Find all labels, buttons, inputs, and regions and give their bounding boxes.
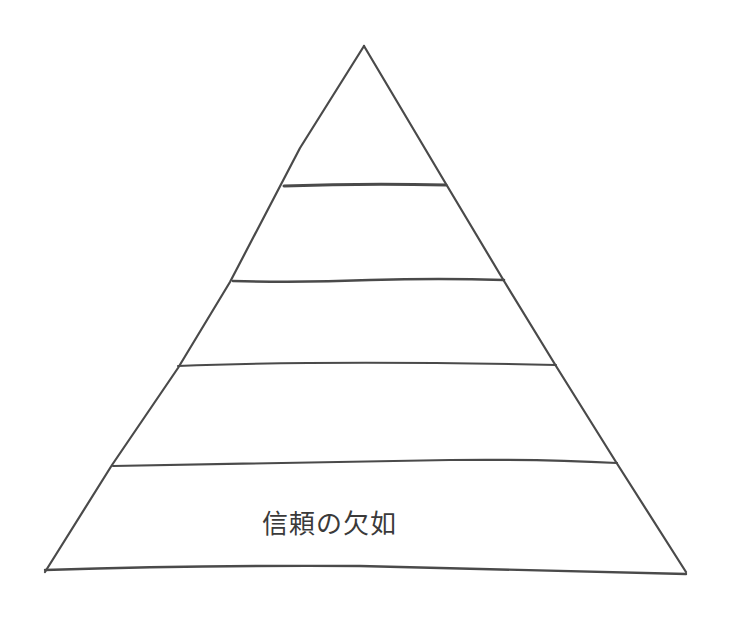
pyramid-base — [45, 566, 686, 574]
divider-1 — [284, 184, 446, 186]
divider-2 — [233, 279, 504, 282]
pyramid-right-edge — [364, 46, 686, 572]
divider-4 — [113, 460, 617, 466]
pyramid-left-edge — [45, 46, 364, 572]
divider-3 — [178, 363, 556, 366]
layer-5-label: 信頼の欠如 — [262, 503, 442, 539]
